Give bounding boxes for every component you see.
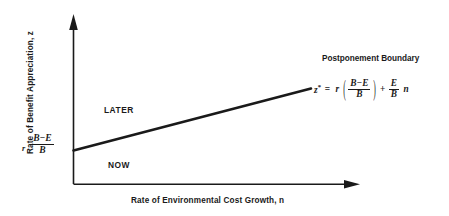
equation-lhs-star: * (318, 83, 322, 90)
intercept-denominator: B (37, 145, 47, 155)
region-label-now: NOW (108, 160, 130, 170)
equation-term1-numerator: B−E (348, 79, 370, 90)
equation-paren-close: ) (373, 77, 376, 102)
intercept-fraction: B−E B (31, 134, 53, 155)
y-intercept-label: r B−E B (22, 134, 55, 155)
equation-term2-denominator: B (389, 90, 399, 100)
intercept-numerator: B−E (31, 134, 53, 145)
y-axis-arrowhead-icon (69, 14, 78, 30)
intercept-coefficient-r: r (22, 144, 25, 153)
equation-term2-numerator: E (389, 79, 399, 90)
x-axis-title: Rate of Environmental Cost Growth, n (131, 196, 284, 205)
equation-paren-open: ( (343, 77, 346, 102)
postponement-boundary-figure: Rate of Benefit Appreciation, z Rate of … (0, 0, 449, 216)
x-axis-arrowhead-icon (344, 180, 360, 189)
equation-lhs: z* (314, 83, 321, 95)
equation-term1-denominator: B (354, 90, 364, 100)
equation-equals-sign: = (325, 84, 330, 94)
postponement-boundary-line (74, 89, 312, 151)
equation-term2-fraction: E B (389, 79, 399, 100)
equation-term1-fraction: B−E B (348, 79, 370, 100)
region-label-later: LATER (104, 105, 134, 115)
axes-and-plot-line (0, 0, 449, 216)
equation-plus-sign: + (380, 84, 385, 94)
equation-variable-n: n (404, 84, 409, 94)
postponement-boundary-caption: Postponement Boundary (322, 54, 419, 63)
equation-coefficient-r: r (336, 84, 340, 94)
boundary-equation: z* = r ( B−E B ) + E B n (314, 79, 409, 100)
